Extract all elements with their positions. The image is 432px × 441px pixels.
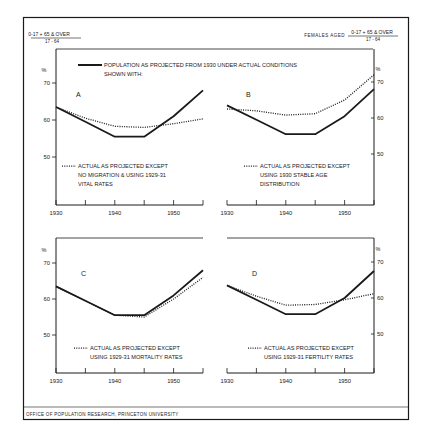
y-tick-label: 50 <box>377 331 383 337</box>
y-axis-unit-label: % <box>42 247 47 253</box>
y-tick-label: 50 <box>44 154 50 160</box>
legend-text: ACTUAL AS PROJECTED EXCEPT <box>264 345 355 351</box>
y-axis-unit-label: % <box>376 66 381 72</box>
main-legend-line2: SHOWN WITH: <box>104 71 143 77</box>
x-tick-label: 1930 <box>221 378 234 384</box>
left-ratio-numerator: 0-17 + 65 & OVER <box>28 31 70 37</box>
panel-b: 506070%193019401950BACTUAL AS PROJECTED … <box>221 49 384 216</box>
x-tick-label: 1950 <box>338 378 351 384</box>
legend-text: USING 1929-31 FERTILITY RATES <box>264 354 353 360</box>
legend-text: USING 1930 STABLE AGE <box>260 172 328 178</box>
main-legend-line1: POPULATION AS PROJECTED FROM 1930 UNDER … <box>104 62 297 68</box>
legend-text: ACTUAL AS PROJECTED EXCEPT <box>78 163 169 169</box>
right-ratio-prefix: FEMALES AGED <box>304 33 345 38</box>
x-tick-label: 1940 <box>279 210 292 216</box>
y-axis-unit-label: % <box>376 246 381 252</box>
footer-credit: OFFICE OF POPULATION RESEARCH, PRINCETON… <box>26 412 179 417</box>
y-tick-label: 60 <box>44 296 50 302</box>
x-tick-label: 1930 <box>50 378 63 384</box>
x-tick-label: 1950 <box>338 210 351 216</box>
panel-c: 506070%193019401950CACTUAL AS PROJECTED … <box>42 238 203 384</box>
legend-text: ACTUAL AS PROJECTED EXCEPT <box>260 163 351 169</box>
y-tick-label: 70 <box>377 259 383 265</box>
x-tick-label: 1940 <box>279 378 292 384</box>
series-actual-line <box>56 270 203 315</box>
x-tick-label: 1940 <box>108 378 121 384</box>
legend-text: USING 1929-31 MORTALITY RATES <box>90 354 183 360</box>
y-tick-label: 50 <box>377 151 383 157</box>
y-axis-unit-label: % <box>42 67 47 73</box>
y-tick-label: 70 <box>44 80 50 86</box>
legend-text: ACTUAL AS PROJECTED EXCEPT <box>90 345 181 351</box>
legend-text: NO MIGRATION & USING 1929-31 <box>78 172 166 178</box>
legend-text: VITAL RATES <box>78 181 113 187</box>
x-tick-label: 1950 <box>167 210 180 216</box>
series-actual-line <box>227 271 374 314</box>
y-tick-label: 50 <box>44 332 50 338</box>
y-tick-label: 70 <box>44 260 50 266</box>
x-tick-label: 1930 <box>221 210 234 216</box>
y-tick-label: 60 <box>377 295 383 301</box>
x-tick-label: 1950 <box>167 378 180 384</box>
y-tick-label: 60 <box>44 117 50 123</box>
left-ratio-denominator: 17 - 64 <box>45 39 60 44</box>
panel-letter: C <box>81 270 86 277</box>
y-tick-label: 70 <box>377 79 383 85</box>
panel-d: 506070%193019401950DACTUAL AS PROJECTED … <box>221 238 384 384</box>
panel-letter: A <box>76 91 81 98</box>
legend-text: DISTRIBUTION <box>260 181 299 187</box>
panel-letter: D <box>252 270 257 277</box>
x-tick-label: 1930 <box>50 210 63 216</box>
right-ratio-numerator: 0-17 + 65 & OVER <box>351 29 393 35</box>
right-ratio-denominator: 17 - 64 <box>366 37 381 42</box>
figure: 0-17 + 65 & OVER 17 - 64 FEMALES AGED 0-… <box>0 0 432 441</box>
y-tick-label: 60 <box>377 115 383 121</box>
x-tick-label: 1940 <box>108 210 121 216</box>
panel-letter: B <box>246 91 251 98</box>
